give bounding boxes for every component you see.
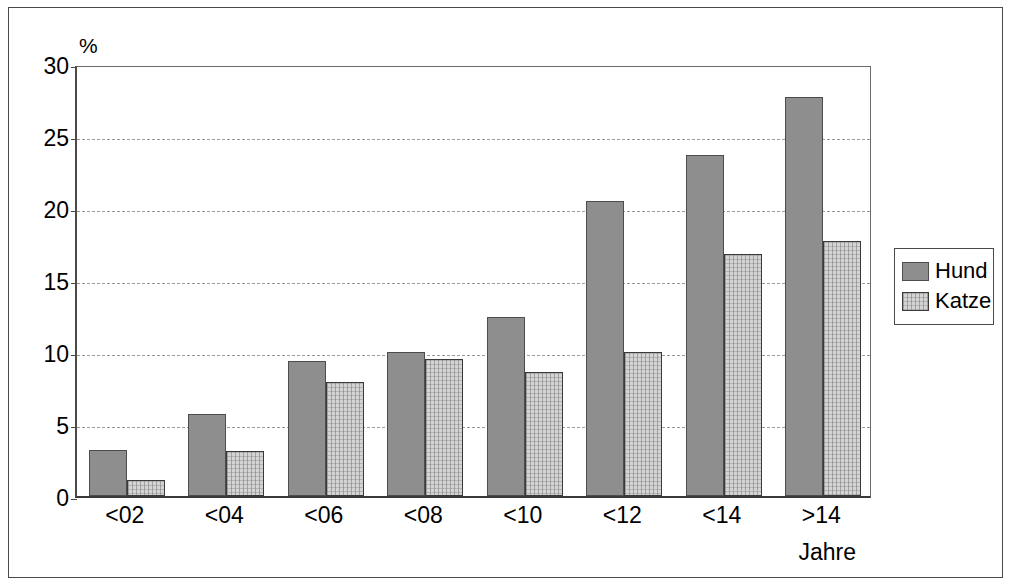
bar-katze-0 — [127, 480, 165, 496]
bar-katze-7 — [823, 241, 861, 496]
x-axis-tick-label: >14 — [802, 504, 841, 527]
bar-hund-0 — [89, 450, 127, 496]
bar-katze-3 — [425, 359, 463, 496]
x-axis-tick-label: <06 — [304, 504, 343, 527]
bar-hund-2 — [288, 361, 326, 496]
x-axis-tick-label: <10 — [503, 504, 542, 527]
bar-katze-6 — [724, 254, 762, 496]
bar-group — [387, 67, 463, 496]
bar-group — [785, 67, 861, 496]
legend-item-katze: Katze — [902, 286, 985, 316]
bar-hund-7 — [785, 97, 823, 496]
x-axis-tick-labels: <02<04<06<08<10<12<14>14 — [75, 504, 871, 538]
y-axis-tick-label: 30 — [25, 55, 69, 78]
bar-hund-6 — [686, 155, 724, 496]
bar-katze-2 — [326, 382, 364, 496]
x-axis-tick-label: <08 — [404, 504, 443, 527]
x-axis-tick-label: <02 — [105, 504, 144, 527]
y-axis-tick-labels: 302520151050 — [13, 66, 69, 498]
bar-group — [586, 67, 662, 496]
bar-katze-5 — [624, 352, 662, 496]
bar-group — [487, 67, 563, 496]
bar-hund-1 — [188, 414, 226, 496]
y-axis-tick-label: 5 — [25, 415, 69, 438]
bar-group — [288, 67, 364, 496]
y-axis-tick-label: 20 — [25, 199, 69, 222]
chart-legend: HundKatze — [894, 248, 994, 325]
x-axis-tick-label: <12 — [603, 504, 642, 527]
legend-swatch-hund — [902, 262, 929, 281]
bar-group — [686, 67, 762, 496]
bar-hund-5 — [586, 201, 624, 496]
bar-group — [89, 67, 165, 496]
chart-figure: % 302520151050 <02<04<06<08<10<12<14>14 … — [8, 7, 1003, 578]
y-axis-tick-label: 15 — [25, 271, 69, 294]
bar-hund-3 — [387, 352, 425, 496]
x-axis-tick-label: <14 — [702, 504, 741, 527]
legend-label-hund: Hund — [935, 260, 988, 282]
legend-item-hund: Hund — [902, 256, 985, 286]
y-axis-tick-label: 10 — [25, 343, 69, 366]
y-axis-tick-mark — [71, 499, 77, 500]
bar-group — [188, 67, 264, 496]
y-axis-tick-label: 0 — [25, 487, 69, 510]
x-axis-tick-label: <04 — [205, 504, 244, 527]
legend-swatch-katze — [902, 292, 929, 311]
y-axis-tick-label: 25 — [25, 127, 69, 150]
bar-katze-4 — [525, 372, 563, 496]
bar-series-container — [77, 67, 870, 496]
y-axis-title: % — [79, 34, 98, 58]
bar-katze-1 — [226, 451, 264, 496]
bar-hund-4 — [487, 317, 525, 496]
legend-label-katze: Katze — [935, 290, 991, 312]
plot-area — [75, 66, 871, 498]
x-axis-title: Jahre — [798, 539, 856, 566]
